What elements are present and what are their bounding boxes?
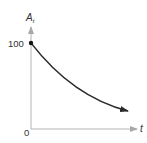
y-axis-label: At bbox=[25, 12, 35, 24]
decay-curve bbox=[31, 43, 128, 111]
y-tick-0: 0 bbox=[24, 127, 29, 138]
x-axis-label: t bbox=[140, 123, 144, 134]
y-tick-100: 100 bbox=[8, 38, 24, 49]
start-point-marker bbox=[29, 41, 33, 45]
decay-chart: At 100 0 t bbox=[0, 0, 147, 143]
